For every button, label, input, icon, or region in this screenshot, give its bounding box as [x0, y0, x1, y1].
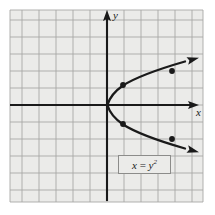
parabola-figure: y x x = y2	[0, 0, 215, 215]
equation-label-box: x = y2	[118, 155, 171, 174]
x-axis-label: x	[196, 107, 201, 118]
equation-operator: =	[140, 159, 146, 171]
parabola-upper-branch	[107, 57, 199, 105]
x-axis-line	[10, 101, 199, 109]
equation-label-text: x = y2	[132, 158, 157, 171]
marked-point	[169, 136, 175, 142]
marked-point	[169, 68, 175, 74]
marked-point	[120, 121, 126, 127]
parabola-lower-branch	[107, 105, 199, 153]
marked-point	[120, 82, 126, 88]
equation-rhs-exponent: 2	[154, 158, 158, 166]
y-axis-label: y	[113, 10, 118, 21]
graph-curves-and-axes	[0, 0, 215, 215]
